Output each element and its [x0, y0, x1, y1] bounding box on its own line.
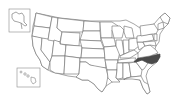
state-washington: [34, 13, 52, 28]
state-north-dakota: [83, 21, 100, 31]
alaska-inset: [9, 9, 30, 32]
state-nebraska: [80, 40, 104, 49]
state-indiana: [123, 40, 129, 54]
state-wyoming: [60, 32, 80, 46]
state-maryland: [143, 41, 156, 46]
state-wisconsin: [112, 26, 124, 38]
state-hawaii: [31, 77, 36, 84]
state-new-mexico: [64, 56, 80, 74]
hawaii-inset: [17, 68, 40, 87]
state-mississippi: [116, 63, 123, 79]
state-south-dakota: [80, 31, 101, 41]
state-new-jersey: [154, 34, 157, 41]
us-map: [0, 0, 187, 110]
state-iowa: [101, 38, 116, 47]
state-arkansas: [105, 60, 118, 70]
continental-us: [32, 13, 170, 94]
state-arizona: [50, 56, 65, 74]
state-kansas: [81, 48, 105, 58]
state-alaska: [12, 12, 27, 26]
hawaii-inset-frame: [17, 68, 40, 87]
